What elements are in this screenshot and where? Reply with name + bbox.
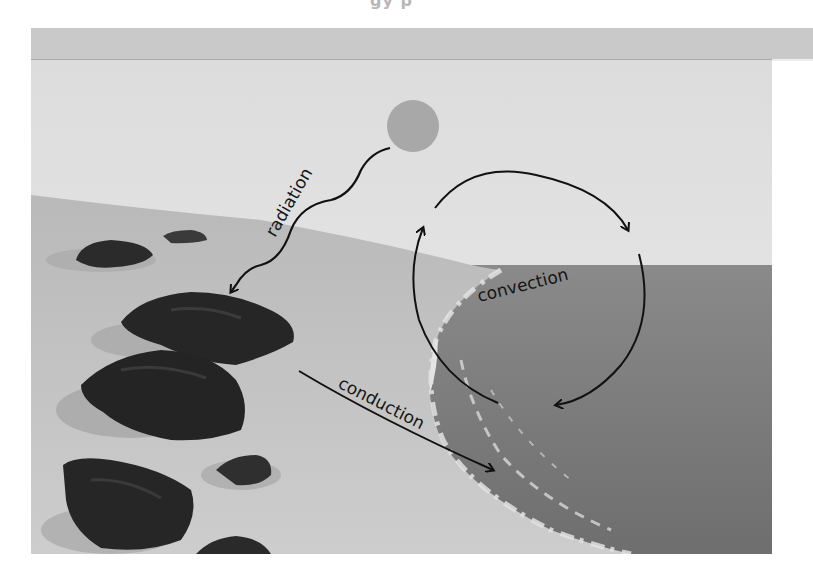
header-band <box>31 28 813 60</box>
clipped-title-text: gy p <box>370 0 413 10</box>
band-edge <box>772 59 813 61</box>
heat-transfer-illustration: radiation convection conduction <box>31 60 772 554</box>
sun <box>387 100 439 152</box>
